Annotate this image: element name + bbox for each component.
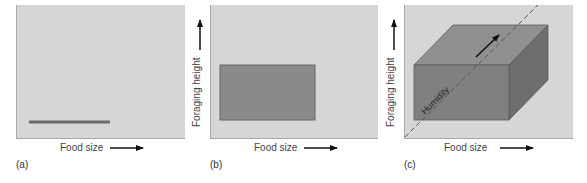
panel-c-y-axis-label: Foraging height [385,58,396,128]
panel-c-label: (c) [404,159,416,170]
panel-b-label: (b) [210,159,222,170]
panel-c-x-axis-label: Food size [444,142,487,153]
panel-a-x-axis-label: Food size [60,142,103,153]
panel-b-y-axis-label: Foraging height [191,58,202,128]
panel-a-label: (a) [16,159,28,170]
diagram-graphics: Humidity [0,0,587,183]
panel-b-x-axis-label: Food size [254,142,297,153]
niche-rectangle [220,65,315,120]
